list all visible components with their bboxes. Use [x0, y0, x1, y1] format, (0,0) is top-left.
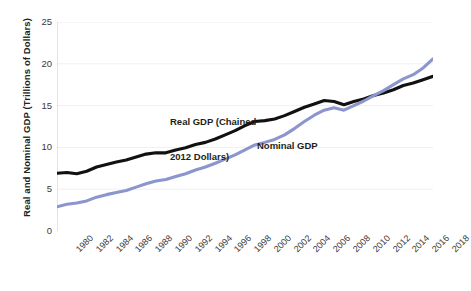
x-tick-label: 2018	[450, 233, 471, 254]
x-tick-label: 1984	[113, 233, 134, 254]
y-axis-tick-labels: 25 20 15 10 5 0	[26, 22, 52, 231]
x-tick-label: 2010	[371, 233, 392, 254]
x-tick-label: 2014	[410, 233, 431, 254]
y-tick-label: 10	[28, 142, 52, 152]
x-tick-label: 1992	[193, 233, 214, 254]
y-tick-label: 25	[28, 17, 52, 27]
x-tick-label: 2012	[390, 233, 411, 254]
x-tick-label: 1998	[252, 233, 273, 254]
y-tick-label: 20	[28, 59, 52, 69]
x-tick-label: 1996	[232, 233, 253, 254]
x-tick-label: 2000	[272, 233, 293, 254]
x-tick-label: 1982	[94, 233, 115, 254]
x-tick-label: 2006	[331, 233, 352, 254]
x-tick-label: 1980	[74, 233, 95, 254]
x-tick-label: 2016	[430, 233, 451, 254]
x-tick-label: 2008	[351, 233, 372, 254]
annotation-nominal-gdp: Nominal GDP	[257, 140, 318, 152]
x-axis-tick-labels: 1980198219841986198819901992199419961998…	[57, 233, 433, 289]
x-tick-label: 2004	[311, 233, 332, 254]
y-tick-label: 0	[28, 226, 52, 236]
x-tick-label: 1986	[133, 233, 154, 254]
x-tick-label: 1988	[153, 233, 174, 254]
x-tick-label: 2002	[292, 233, 313, 254]
y-tick-label: 15	[28, 101, 52, 111]
annotation-real-gdp: Real GDP (Chained 2012 Dollars)	[170, 93, 256, 186]
annotation-real-gdp-line2: 2012 Dollars)	[170, 151, 256, 163]
x-tick-label: 1994	[212, 233, 233, 254]
y-tick-label: 5	[28, 184, 52, 194]
annotation-real-gdp-line1: Real GDP (Chained	[170, 116, 256, 128]
x-tick-label: 1990	[173, 233, 194, 254]
